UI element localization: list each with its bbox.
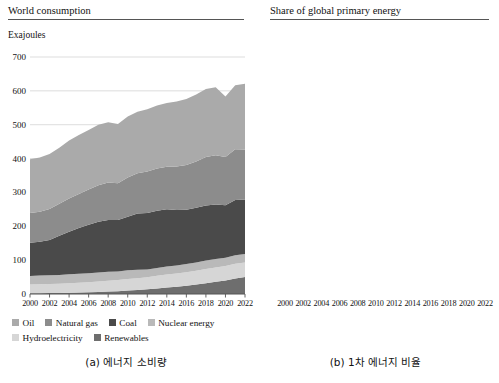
panel-energy-share: Share of global primary energy 05%10%15%…	[252, 0, 499, 383]
panel-b-xtick-2018: 2018	[441, 299, 457, 308]
legend-swatch-icon	[45, 319, 52, 326]
panel-a-svg	[30, 57, 245, 294]
panel-a-ytick-100: 100	[0, 255, 26, 265]
legend-swatch-icon	[12, 334, 19, 341]
panel-a-xtick-2000: 2000	[22, 299, 38, 308]
legend-label: Natural gas	[56, 316, 98, 330]
panel-a-xtick-2018: 2018	[198, 299, 214, 308]
legend-label: Coal	[119, 316, 136, 330]
panel-a-unit-label: Exajoules	[8, 30, 45, 40]
legend-swatch-icon	[12, 319, 19, 326]
legend-row: HydroelectricityRenewables	[12, 330, 250, 345]
legend-label: Renewables	[104, 331, 148, 345]
panel-a-header-rule	[8, 19, 244, 20]
panel-a-xtick-2002: 2002	[42, 299, 58, 308]
panel-a-xtick-2020: 2020	[218, 299, 234, 308]
panel-b-caption: (b) 1차 에너지 비율	[252, 354, 499, 369]
panel-a-ytick-700: 700	[0, 52, 26, 62]
legend-item-oil[interactable]: Oil	[12, 316, 34, 330]
legend-swatch-icon	[148, 319, 155, 326]
panel-b-xtick-2010: 2010	[368, 299, 384, 308]
panel-a-ytick-500: 500	[0, 120, 26, 130]
panel-b-xtick-2020: 2020	[459, 299, 475, 308]
panel-a-xtick-2016: 2016	[179, 299, 195, 308]
panel-b-header: Share of global primary energy	[270, 4, 489, 26]
panel-b-xtick-2000: 2000	[277, 299, 293, 308]
panel-a-plot-area	[30, 57, 245, 294]
panel-a-xtick-2022: 2022	[237, 299, 253, 308]
panel-a-ytick-0: 0	[0, 289, 26, 299]
panel-energy-consumption: World consumption Exajoules 010020030040…	[0, 0, 252, 383]
legend-item-natural-gas[interactable]: Natural gas	[45, 316, 98, 330]
panel-b-xtick-2002: 2002	[295, 299, 311, 308]
figure-root: World consumption Exajoules 010020030040…	[0, 0, 499, 383]
panel-a-xtick-2006: 2006	[81, 299, 97, 308]
panel-a-xtick-2004: 2004	[61, 299, 77, 308]
panel-b-xtick-2012: 2012	[386, 299, 402, 308]
legend-item-nuclear-energy[interactable]: Nuclear energy	[148, 316, 215, 330]
legend-label: Hydroelectricity	[23, 331, 83, 345]
panel-b-header-rule	[270, 19, 489, 20]
legend-item-coal[interactable]: Coal	[109, 316, 137, 330]
panel-a-xtick-2008: 2008	[100, 299, 116, 308]
panel-a-ytick-300: 300	[0, 187, 26, 197]
legend-row: OilNatural gasCoalNuclear energy	[12, 315, 250, 330]
legend-item-hydroelectricity[interactable]: Hydroelectricity	[12, 331, 83, 345]
panel-a-xtick-2014: 2014	[159, 299, 175, 308]
legend-swatch-icon	[109, 319, 116, 326]
panel-a-caption: (a) 에너지 소비량	[0, 354, 252, 369]
legend-item-renewables[interactable]: Renewables	[94, 331, 149, 345]
panel-b-xtick-2022: 2022	[477, 299, 493, 308]
panel-b-xtick-2004: 2004	[314, 299, 330, 308]
legend-label: Oil	[23, 316, 35, 330]
panel-a-header: World consumption	[8, 4, 242, 26]
panel-b-xtick-2014: 2014	[404, 299, 420, 308]
panel-b-xtick-2008: 2008	[350, 299, 366, 308]
panel-a-ytick-600: 600	[0, 86, 26, 96]
panel-b-title: Share of global primary energy	[270, 4, 489, 17]
legend-label: Nuclear energy	[158, 316, 214, 330]
panel-b-xtick-2016: 2016	[423, 299, 439, 308]
panel-a-legend: OilNatural gasCoalNuclear energyHydroele…	[12, 315, 250, 345]
panel-b-xtick-2006: 2006	[332, 299, 348, 308]
panel-a-ytick-400: 400	[0, 154, 26, 164]
panel-a-ytick-200: 200	[0, 221, 26, 231]
panel-a-xtick-2012: 2012	[139, 299, 155, 308]
panel-a-xtick-2010: 2010	[120, 299, 136, 308]
legend-swatch-icon	[94, 334, 101, 341]
panel-a-title: World consumption	[8, 4, 242, 17]
